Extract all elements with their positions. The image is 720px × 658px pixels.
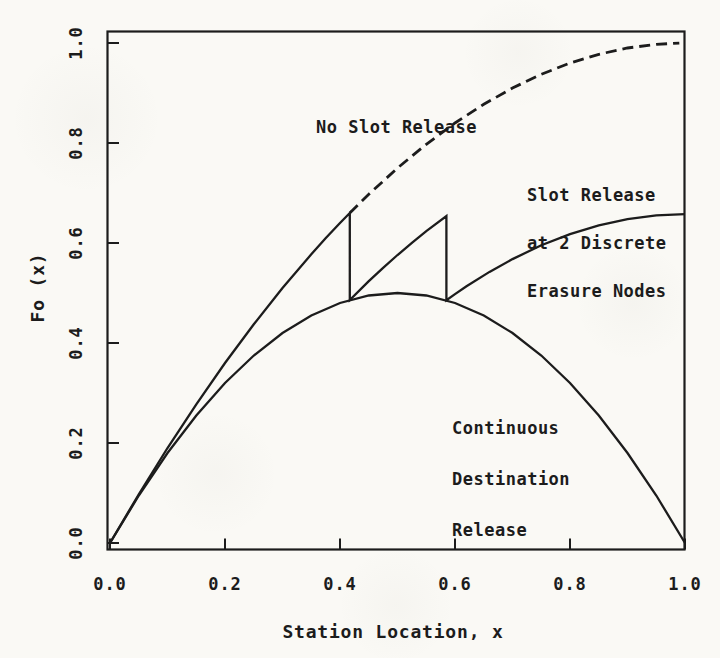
x-axis-title: Station Location, x [233, 621, 553, 642]
y-tick-label-0.8: 0.8 [65, 113, 87, 173]
curve-label-line: Erasure Nodes [527, 283, 667, 299]
y-tick-label-0.6: 0.6 [65, 213, 87, 273]
curve-label-line: Destination [452, 471, 570, 488]
curve-label-line: No Slot Release [316, 118, 477, 136]
y-tick-label-0.0: 0.0 [65, 513, 87, 573]
curve-label-line: Slot Release [527, 187, 667, 203]
y-tick-label-0.2: 0.2 [65, 413, 87, 473]
scanned-chart-page: 0.00.20.40.60.81.0 0.00.20.40.60.81.0 Fo… [0, 0, 720, 658]
x-tick-label-0.0: 0.0 [80, 574, 140, 594]
curve-label-line: at 2 Discrete [527, 235, 667, 251]
x-tick-label-0.6: 0.6 [425, 574, 485, 594]
x-tick-label-0.4: 0.4 [310, 574, 370, 594]
x-tick-label-1.0: 1.0 [655, 574, 715, 594]
curve-label-line: Continuous [452, 420, 570, 437]
y-axis-title: Fo (x) [27, 228, 48, 348]
x-tick-label-0.2: 0.2 [195, 574, 255, 594]
y-tick-label-0.4: 0.4 [65, 313, 87, 373]
y-tick-label-1.0: 1.0 [65, 13, 87, 73]
curve-label-no-slot-release: No Slot Release [316, 82, 477, 172]
curve-label-slot-release: Slot Release at 2 Discrete Erasure Nodes [527, 155, 667, 331]
x-tick-label-0.8: 0.8 [540, 574, 600, 594]
curve-label-line: Release [452, 522, 570, 539]
curve-label-continuous-release: Continuous Destination Release [452, 386, 570, 573]
